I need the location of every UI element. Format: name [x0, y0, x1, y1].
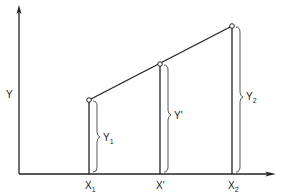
- label-yprime: Y': [174, 110, 183, 121]
- point-p2: [230, 24, 235, 29]
- brace-y2: [236, 27, 243, 172]
- point-p1: [87, 98, 92, 103]
- label-xprime: X': [156, 180, 165, 191]
- brace-yprime: [164, 65, 171, 172]
- label-x1: X1: [85, 180, 96, 193]
- point-pprime: [158, 62, 163, 67]
- brace-y1: [93, 101, 100, 172]
- interpolation-diagram: Y Y1 Y' Y2 X1 X' X2: [0, 0, 281, 194]
- y-axis-label: Y: [6, 89, 13, 100]
- label-y1: Y1: [103, 132, 114, 145]
- label-x2: X2: [228, 180, 239, 193]
- diagram-svg: Y Y1 Y' Y2 X1 X' X2: [0, 0, 281, 194]
- label-y2: Y2: [246, 91, 257, 104]
